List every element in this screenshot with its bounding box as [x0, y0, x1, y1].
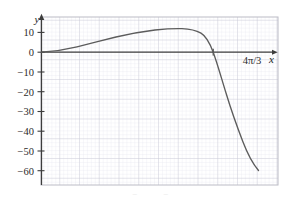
- caption-glyph-right: −: [163, 189, 168, 199]
- y-axis-name: y: [34, 13, 40, 25]
- plot-svg: 10 0 −10 −20 −30 −40 −50 −60 4π/3 y x − …: [0, 0, 287, 199]
- plot-grid: [41, 17, 278, 185]
- x-tick-label-4pi-3: 4π/3: [243, 55, 262, 66]
- y-tick-label-neg10: −10: [18, 67, 34, 78]
- y-tick-label-0: 0: [29, 47, 34, 58]
- figure-container: 10 0 −10 −20 −30 −40 −50 −60 4π/3 y x − …: [0, 0, 287, 199]
- y-tick-label-neg20: −20: [18, 87, 34, 98]
- y-tick-label-neg60: −60: [18, 166, 34, 177]
- y-tick-label-neg50: −50: [18, 146, 34, 157]
- y-tick-labels: 10 0 −10 −20 −30 −40 −50 −60: [18, 27, 34, 176]
- y-tick-label-10: 10: [24, 27, 35, 38]
- cropped-caption-remnant: − −: [132, 189, 168, 199]
- y-tick-label-neg30: −30: [18, 106, 34, 117]
- caption-glyph-left: −: [132, 189, 137, 199]
- y-tick-label-neg40: −40: [18, 126, 34, 137]
- x-axis-name: x: [268, 53, 274, 65]
